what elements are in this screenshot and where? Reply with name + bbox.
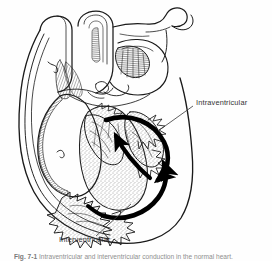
heart-cross-section-illustration bbox=[0, 0, 272, 261]
figure-caption-text: Intraventricular and interventricular co… bbox=[39, 253, 233, 260]
intraventricular-leader bbox=[158, 106, 193, 131]
figure-caption: Fig. 7-1 Intraventricular and interventr… bbox=[14, 253, 266, 261]
ink-layer bbox=[19, 8, 193, 248]
label-interventricular: Interventricular bbox=[59, 236, 110, 243]
figure-container: Intraventricular Interventricular Fig. 7… bbox=[0, 0, 272, 261]
label-intraventricular: Intraventricular bbox=[196, 99, 247, 106]
figure-caption-number: Fig. 7-1 bbox=[14, 253, 37, 260]
